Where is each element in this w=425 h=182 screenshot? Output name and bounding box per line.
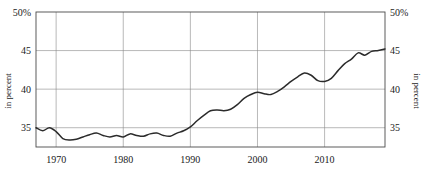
y-tick-label-left: 40 [21, 84, 31, 95]
x-tick-label: 1970 [46, 154, 66, 165]
chart-container: 35404550% 35404550% 19701980199020002010… [0, 0, 425, 182]
y-axis-tick-labels-left: 35404550% [13, 7, 31, 134]
y-axis-tick-labels-right: 35404550% [390, 7, 408, 134]
x-tick-label: 2010 [315, 154, 335, 165]
y-tick-label-left: 45 [21, 45, 31, 56]
x-tick-label: 1980 [113, 154, 133, 165]
y-axis-title-left: in percent [3, 73, 13, 109]
y-tick-label-left: 50% [13, 7, 31, 18]
x-tick-label: 2000 [247, 154, 267, 165]
y-axis-title-right: in percent [412, 73, 422, 109]
y-tick-label-right: 50% [390, 7, 408, 18]
y-tick-label-right: 45 [390, 45, 400, 56]
x-axis-tick-labels: 19701980199020002010 [46, 154, 334, 165]
y-tick-label-right: 35 [390, 122, 400, 133]
y-tick-label-right: 40 [390, 84, 400, 95]
x-tick-label: 1990 [180, 154, 200, 165]
y-tick-label-left: 35 [21, 122, 31, 133]
line-chart: 35404550% 35404550% 19701980199020002010… [0, 0, 425, 182]
plot-area-background [36, 12, 385, 147]
